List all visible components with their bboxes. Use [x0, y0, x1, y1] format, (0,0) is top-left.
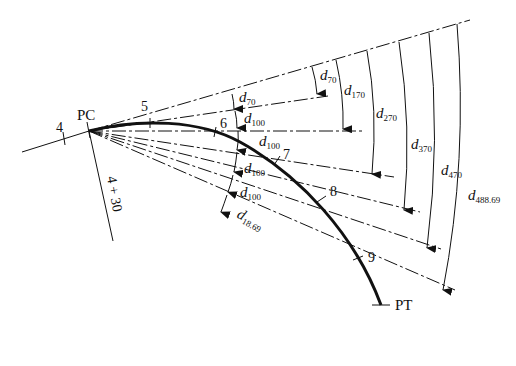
inner-d100-label-4: d100: [240, 184, 262, 202]
chord-line-d488: [89, 131, 455, 290]
station-7-label: 7: [283, 147, 290, 162]
cum-d70-label: d70: [320, 67, 337, 85]
forward-tangent-line: [89, 20, 470, 131]
cum-d488-label: d488.69: [468, 187, 501, 205]
cum-d470-label: d470: [441, 162, 463, 180]
inner-d100-label-2: d100: [259, 133, 281, 151]
station-4-label: 4: [56, 120, 63, 135]
inner-d70-label: d70: [239, 89, 256, 107]
inner-d18-label: d18.69: [234, 206, 267, 235]
station-8-label: 8: [330, 184, 337, 199]
inner-d100-label-3: d100: [244, 160, 266, 178]
pc-label: PC: [77, 107, 95, 123]
chord-lines: [89, 96, 455, 290]
pc-station-label: 4 + 30: [104, 175, 125, 213]
station-9-label: 9: [368, 250, 375, 265]
pt-label: PT: [395, 297, 413, 313]
station-8-tick: [317, 196, 326, 202]
curve-diagram: PC 4 5 6 7 8 9 PT 4 + 30 d70 d100 d100 d…: [0, 0, 516, 366]
station-5-label: 5: [141, 99, 148, 114]
chord-line-d270: [89, 131, 394, 177]
station-6-label: 6: [220, 116, 227, 131]
cum-d370-label: d370: [411, 136, 433, 154]
cum-d170-label: d170: [344, 82, 366, 100]
cum-d270-label: d270: [376, 105, 398, 123]
station-7-tick: [274, 156, 280, 165]
cumulative-deflection-arrows: [312, 24, 460, 290]
inner-d100-label-1: d100: [244, 110, 266, 128]
